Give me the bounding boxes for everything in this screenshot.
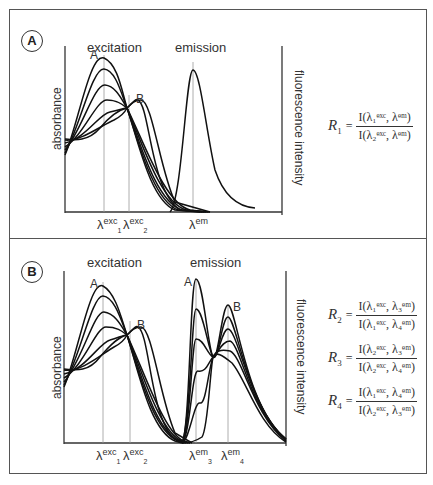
equation-r4: R4 = I(λ₁ᵉˣᶜ, λ₄ᵉᵐ)I(λ₂ᵉˣᶜ, λ₃ᵉᵐ) [328, 385, 417, 418]
curve-label-a: A [90, 277, 98, 291]
equation-r3: R3 = I(λ₂ᵉˣᶜ, λ₃ᵉᵐ)I(λ₂ᵉˣᶜ, λ₄ᵉᵐ) [328, 342, 417, 375]
panel-b: B excitation emission absorbance fluores… [9, 238, 427, 474]
equation-r2: R2 = I(λ₁ᵉˣᶜ, λ₃ᵉᵐ)I(λ₁ᵉˣᶜ, λ₄ᵉᵐ) [328, 299, 417, 332]
tick-lambda1-exc: λexc1 [97, 216, 121, 234]
curve-label-a: A [90, 48, 98, 62]
curve-label-b: B [136, 92, 144, 106]
tick-lambda4-em: λem4 [221, 447, 244, 465]
tick-lambda-em: λem [189, 216, 208, 232]
emission-curve-label-a: A [184, 275, 192, 289]
emission-curve-label-b: B [233, 300, 241, 314]
tick-lambda3-em: λem3 [189, 447, 212, 465]
panel-a: A excitation emission absorbance fluores… [9, 9, 427, 239]
curve-label-b: B [137, 318, 145, 332]
tick-lambda1-exc: λexc1 [96, 447, 120, 465]
tick-lambda2-exc: λexc2 [123, 216, 147, 234]
tick-lambda2-exc: λexc2 [123, 447, 147, 465]
equation-r1: R1 = I(λ₁ᵉˣᶜ, λᵉᵐ)I(λ₂ᵉˣᶜ, λᵉᵐ) [328, 110, 413, 143]
